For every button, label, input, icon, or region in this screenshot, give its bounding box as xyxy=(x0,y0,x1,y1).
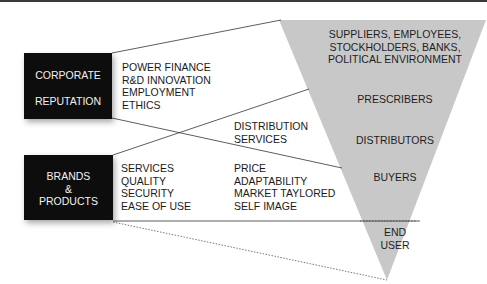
connector-corporate-top xyxy=(112,20,281,53)
market-group: PRICE ADAPTABILITY MARKET TAYLORED SELF … xyxy=(234,162,335,212)
funnel-level-end-user: END USER xyxy=(355,226,435,251)
funnel-line: PRESCRIBERS xyxy=(320,93,470,106)
attribute-item: POWER FINANCE xyxy=(122,61,211,74)
connector-brands-dotted xyxy=(113,222,387,280)
attribute-item: R&D INNOVATION xyxy=(122,74,211,87)
market-item: MARKET TAYLORED xyxy=(234,187,335,200)
funnel-level-stakeholders: SUPPLIERS, EMPLOYEES, STOCKHOLDERS, BANK… xyxy=(320,28,470,66)
corporate-label-line: CORPORATE xyxy=(24,69,112,81)
funnel-level-prescribers: PRESCRIBERS xyxy=(320,93,470,106)
brands-products-box: BRANDS & PRODUCTS xyxy=(24,155,113,220)
distribution-item: DISTRIBUTION xyxy=(234,120,308,133)
corporate-reputation-box: CORPORATE REPUTATION xyxy=(24,53,112,119)
market-item: SELF IMAGE xyxy=(234,200,335,213)
funnel-line: END xyxy=(355,226,435,239)
funnel-line: SUPPLIERS, EMPLOYEES, xyxy=(320,28,470,41)
attribute-item: SERVICES xyxy=(121,162,191,175)
funnel-line: DISTRIBUTORS xyxy=(320,134,470,147)
funnel-line: POLITICAL ENVIRONMENT xyxy=(320,53,470,66)
brands-label-line: & xyxy=(24,183,113,196)
distribution-item: SERVICES xyxy=(234,133,308,146)
attribute-item: QUALITY xyxy=(121,175,191,188)
attribute-item: EMPLOYMENT xyxy=(122,86,211,99)
funnel-line: USER xyxy=(355,239,435,252)
attribute-item: SECURITY xyxy=(121,187,191,200)
attribute-item: ETHICS xyxy=(122,99,211,112)
distribution-group: DISTRIBUTION SERVICES xyxy=(234,120,308,145)
funnel-level-buyers: BUYERS xyxy=(320,171,470,184)
funnel-line: BUYERS xyxy=(320,171,470,184)
corporate-attributes: POWER FINANCE R&D INNOVATION EMPLOYMENT … xyxy=(122,61,211,111)
brands-label-line: PRODUCTS xyxy=(24,195,113,208)
brands-attributes: SERVICES QUALITY SECURITY EASE OF USE xyxy=(121,162,191,212)
brands-label-line: BRANDS xyxy=(24,170,113,183)
attribute-item: EASE OF USE xyxy=(121,200,191,213)
funnel-level-distributors: DISTRIBUTORS xyxy=(320,134,470,147)
funnel-line: STOCKHOLDERS, BANKS, xyxy=(320,41,470,54)
corporate-label-line: REPUTATION xyxy=(24,95,112,107)
